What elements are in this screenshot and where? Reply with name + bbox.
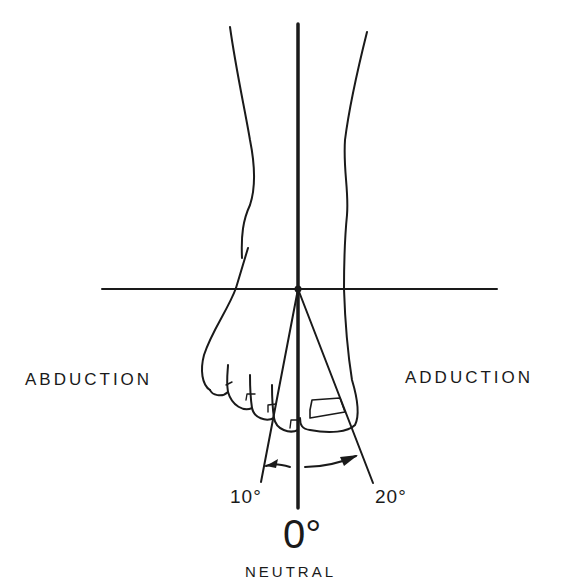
adduction-angle-label: 20° (375, 486, 407, 508)
neutral-angle-label: 0° (283, 512, 321, 557)
left-leg-outline (230, 27, 254, 258)
pivot-point (295, 286, 302, 293)
foot-right-edge (300, 289, 358, 432)
fourth-toe (228, 375, 252, 409)
little-toe (210, 365, 228, 395)
neutral-label: NEUTRAL (245, 563, 336, 580)
foot-drawing (0, 0, 571, 585)
abduction-10deg-line (261, 289, 298, 482)
abduction-label: ABDUCTION (25, 370, 152, 390)
abduction-arrowhead-icon (266, 459, 278, 468)
adduction-arrowhead-icon (340, 455, 358, 466)
right-leg-outline (344, 32, 367, 289)
third-toe (252, 385, 274, 420)
big-toe-nail (310, 398, 345, 418)
foot-left-edge (202, 288, 236, 390)
foot-abduction-adduction-diagram: ABDUCTION ADDUCTION 10° 20° 0° NEUTRAL (0, 0, 571, 585)
abduction-angle-label: 10° (230, 486, 262, 508)
adduction-20deg-line (298, 289, 373, 483)
adduction-label: ADDUCTION (405, 368, 533, 388)
